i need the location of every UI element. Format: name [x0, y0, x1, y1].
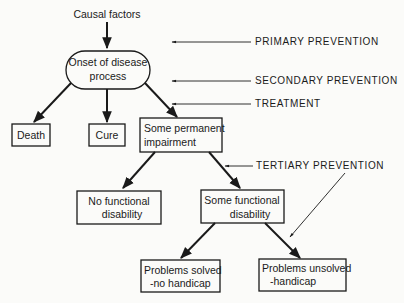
node-no-disability-line1: No functional: [88, 195, 149, 207]
node-solved-line1: Problems solved: [144, 264, 222, 276]
node-death: Death: [12, 124, 50, 146]
node-impairment: Some permanent impairment: [140, 118, 225, 152]
arrow-some-disability-to-unsolved: [265, 223, 300, 258]
secondary-prevention-label: SECONDARY PREVENTION: [255, 75, 398, 86]
node-unsolved-line2: -handicap: [270, 275, 316, 287]
node-problems-unsolved: Problems unsolved -handicap: [259, 259, 351, 291]
arrow-onset-to-impairment: [145, 83, 177, 117]
node-unsolved-line1: Problems unsolved: [262, 262, 351, 274]
primary-prevention-label: PRIMARY PREVENTION: [255, 36, 379, 47]
node-cure: Cure: [89, 124, 125, 146]
tertiary-pointer-line: [290, 173, 345, 237]
node-some-disability: Some functional disability: [201, 190, 284, 223]
arrow-onset-to-death: [34, 83, 71, 122]
node-onset-line1: Onset of disease: [69, 56, 148, 68]
arrow-impairment-to-some-disability: [209, 152, 240, 188]
node-some-disability-line1: Some functional: [204, 194, 279, 206]
node-no-disability: No functional disability: [77, 191, 161, 224]
node-death-label: Death: [17, 129, 45, 141]
node-problems-solved: Problems solved -no handicap: [141, 260, 222, 292]
node-no-disability-line2: disability: [102, 208, 143, 220]
annotation-primary-prevention: PRIMARY PREVENTION: [172, 36, 379, 47]
node-solved-line2: -no handicap: [150, 277, 211, 289]
annotation-treatment: TREATMENT: [172, 98, 321, 109]
annotation-secondary-prevention: SECONDARY PREVENTION: [172, 75, 398, 86]
node-onset-line2: process: [90, 70, 127, 82]
causal-factors-label: Causal factors: [73, 8, 140, 20]
node-cure-label: Cure: [96, 129, 119, 141]
tertiary-prevention-label: TERTIARY PREVENTION: [256, 160, 384, 171]
node-onset: Onset of disease process: [66, 51, 150, 89]
node-impairment-line2: impairment: [144, 136, 196, 148]
arrow-some-disability-to-solved: [181, 223, 215, 258]
prevention-flow-diagram: Causal factors Onset of disease process …: [0, 0, 404, 303]
node-impairment-line1: Some permanent: [144, 122, 225, 134]
node-some-disability-line2: disability: [230, 208, 271, 220]
treatment-label: TREATMENT: [255, 98, 321, 109]
arrow-impairment-to-no-disability: [123, 152, 155, 188]
